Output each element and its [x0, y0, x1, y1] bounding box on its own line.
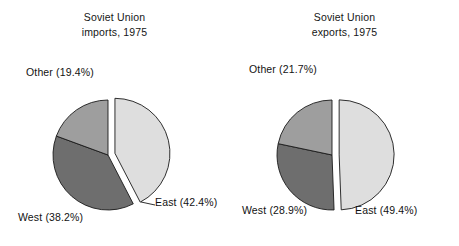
slice-label-imports-east: East (42.4%)	[155, 196, 218, 208]
pie-slice-east	[339, 100, 394, 210]
slice-label-exports-east: East (49.4%)	[355, 204, 418, 216]
slice-label-exports-west: West (28.9%)	[242, 204, 307, 216]
pie-chart-imports	[0, 0, 229, 246]
chart-panel-imports: Soviet Union imports, 1975 Other (19.4%)…	[0, 0, 229, 246]
slice-label-imports-west: West (38.2%)	[18, 211, 83, 223]
figure-canvas: Soviet Union imports, 1975 Other (19.4%)…	[0, 0, 459, 246]
slice-label-imports-other: Other (19.4%)	[26, 66, 94, 78]
slice-label-exports-other: Other (21.7%)	[249, 63, 317, 75]
